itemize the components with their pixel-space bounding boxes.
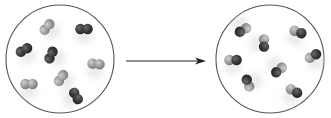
molecule-dark-dark xyxy=(75,24,93,43)
atom-light xyxy=(27,79,37,89)
reaction-arrow xyxy=(126,58,206,65)
molecule-light-light xyxy=(20,79,38,98)
reaction-diagram xyxy=(0,0,331,118)
containers xyxy=(6,5,328,113)
molecule-light-dark xyxy=(224,55,242,74)
atom-dark xyxy=(259,41,269,51)
atom-dark xyxy=(82,24,92,34)
atom-dark xyxy=(231,55,241,65)
molecule-light-light xyxy=(86,58,106,79)
container-reactants xyxy=(6,5,114,113)
molecule-light-dark xyxy=(250,34,269,52)
container-products xyxy=(216,5,328,113)
